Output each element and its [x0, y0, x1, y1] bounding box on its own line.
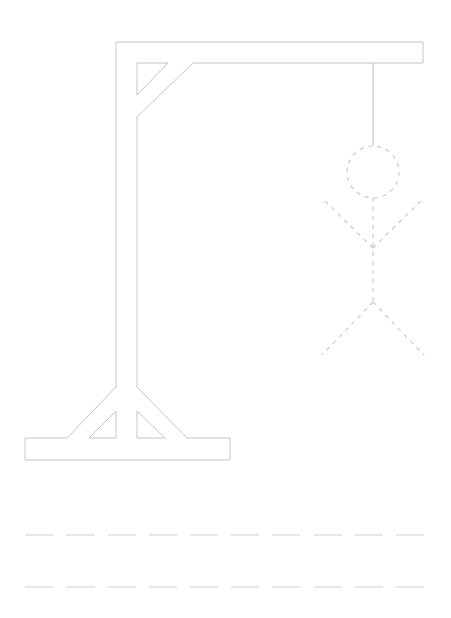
figure-right-leg	[373, 302, 424, 355]
hangman-board	[0, 0, 451, 618]
gallows-drawing	[0, 0, 451, 618]
figure-left-arm	[322, 198, 373, 248]
figure-head	[347, 146, 399, 198]
gallows-top-brace	[137, 63, 168, 95]
figure-right-arm	[373, 198, 424, 248]
hangman-figure	[322, 146, 424, 355]
figure-left-leg	[322, 302, 373, 355]
gallows-base-brace-right	[137, 411, 165, 438]
gallows-base-brace-left	[89, 411, 116, 438]
gallows-frame	[25, 42, 423, 460]
